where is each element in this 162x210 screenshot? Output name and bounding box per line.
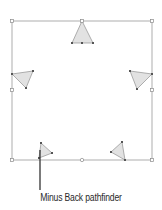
triangle-right[interactable] — [130, 71, 152, 89]
handle-top-middle-icon[interactable] — [81, 20, 84, 23]
anchor-points — [11, 42, 153, 161]
anchor-point-icon[interactable] — [124, 159, 126, 161]
handle-bottom-middle-icon[interactable] — [80, 158, 83, 161]
anchor-point-icon[interactable] — [40, 142, 42, 144]
anchor-point-icon[interactable] — [51, 152, 53, 154]
handle-middle-right-icon[interactable] — [151, 89, 154, 92]
triangle-shapes — [12, 21, 152, 160]
anchor-point-icon[interactable] — [25, 87, 27, 89]
triangle-top[interactable] — [72, 21, 93, 43]
anchor-point-icon[interactable] — [151, 73, 153, 75]
triangle-left[interactable] — [12, 71, 33, 88]
handle-bottom-right-icon[interactable] — [151, 159, 154, 162]
anchor-point-icon[interactable] — [81, 42, 83, 44]
anchor-point-icon[interactable] — [32, 70, 34, 72]
triangle-bottom-left[interactable] — [39, 143, 52, 158]
handle-bottom-left-icon[interactable] — [11, 159, 14, 162]
handle-middle-left-icon[interactable] — [11, 89, 14, 92]
callout-label: Minus Back pathfinder — [11, 192, 150, 203]
anchor-point-icon[interactable] — [92, 42, 94, 44]
anchor-point-icon[interactable] — [110, 151, 112, 153]
pathfinder-diagram — [0, 0, 162, 210]
anchor-point-icon[interactable] — [129, 70, 131, 72]
anchor-point-icon[interactable] — [136, 88, 138, 90]
anchor-point-icon[interactable] — [71, 42, 73, 44]
handle-top-left-icon[interactable] — [11, 20, 14, 23]
triangle-bottom-right[interactable] — [111, 142, 125, 160]
anchor-point-icon[interactable] — [11, 73, 13, 75]
handle-top-right-icon[interactable] — [151, 20, 154, 23]
anchor-point-icon[interactable] — [121, 141, 123, 143]
